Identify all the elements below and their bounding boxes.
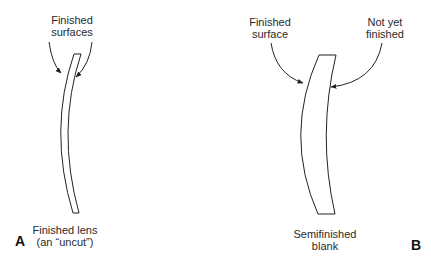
- arrow-not-yet-finished: [331, 43, 382, 87]
- panel-label-b: B: [411, 237, 421, 253]
- arrow-finished-surface-outer: [49, 42, 61, 73]
- lens-diagram: Finished surfaces Finished lens (an “unc…: [0, 0, 431, 261]
- callout-not-yet-finished: Not yet finished: [360, 16, 410, 40]
- arrow-finished-surface: [271, 43, 303, 83]
- callout-line: finished: [360, 28, 410, 40]
- callout-line: Finished: [245, 16, 295, 28]
- caption-line: (an “uncut”): [30, 236, 100, 248]
- finished-lens-shape: [61, 54, 81, 213]
- panel-label-a: A: [15, 233, 25, 249]
- callout-finished-surfaces: Finished surfaces: [42, 14, 102, 38]
- callout-line: Finished: [42, 14, 102, 26]
- callout-line: Not yet: [360, 16, 410, 28]
- callout-line: surfaces: [42, 26, 102, 38]
- caption-semifinished-blank: Semifinished blank: [290, 228, 360, 252]
- caption-finished-lens: Finished lens (an “uncut”): [30, 224, 100, 248]
- caption-line: Finished lens: [30, 224, 100, 236]
- caption-line: blank: [290, 240, 360, 252]
- caption-line: Semifinished: [290, 228, 360, 240]
- callout-finished-surface: Finished surface: [245, 16, 295, 40]
- callout-line: surface: [245, 28, 295, 40]
- semifinished-blank-shape: [301, 55, 336, 214]
- arrow-finished-surface-inner: [76, 42, 92, 77]
